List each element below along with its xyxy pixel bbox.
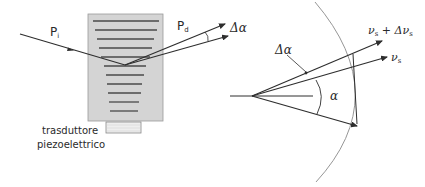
diffracted-beam-label: Pd (177, 20, 189, 34)
vector-incident (252, 96, 357, 126)
transducer-label-line1: trasduttore (42, 126, 98, 136)
vector-vs-plus-dvs (252, 41, 382, 96)
delta-alpha-leader (287, 55, 306, 72)
delta-alpha-arc-left (205, 32, 208, 41)
delta-alpha-label-left: Δα (230, 22, 247, 34)
acousto-optic-crystal (88, 14, 163, 121)
piezo-transducer (106, 122, 141, 133)
vector-vs-plus-dvs-label: νs + Δνs (368, 25, 413, 38)
alpha-arc (316, 80, 321, 114)
vector-vs (252, 57, 387, 96)
wave-vector-diagram (230, 2, 387, 182)
delta-alpha-label-right: Δα (275, 44, 292, 56)
incident-beam-label: Pi (50, 26, 59, 40)
diagram-canvas (0, 0, 425, 187)
alpha-label: α (330, 90, 338, 102)
vector-vs-label: νs (391, 52, 401, 65)
transducer-label-line2: piezoelettrico (37, 140, 105, 150)
